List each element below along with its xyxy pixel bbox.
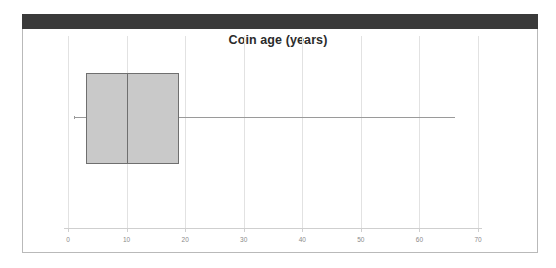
tick-mark-0 — [68, 228, 69, 232]
x-tick-label-20: 20 — [173, 236, 197, 243]
whisker-cap-left — [74, 116, 75, 119]
x-tick-label-50: 50 — [349, 236, 373, 243]
tick-mark-70 — [478, 228, 479, 232]
gridline-0 — [68, 36, 69, 228]
tick-mark-40 — [302, 228, 303, 232]
gridline-60 — [419, 36, 420, 228]
x-tick-label-0: 0 — [56, 236, 80, 243]
tick-mark-20 — [185, 228, 186, 232]
gridline-70 — [478, 36, 479, 228]
median-line — [127, 73, 128, 164]
x-tick-label-30: 30 — [232, 236, 256, 243]
tick-mark-30 — [244, 228, 245, 232]
tick-mark-10 — [127, 228, 128, 232]
tick-mark-50 — [361, 228, 362, 232]
x-tick-label-70: 70 — [466, 236, 490, 243]
boxplot-figure: Coin age (years) 010203040506070 — [0, 0, 556, 268]
gridline-40 — [302, 36, 303, 228]
tick-mark-60 — [419, 228, 420, 232]
x-tick-label-60: 60 — [407, 236, 431, 243]
gridline-50 — [361, 36, 362, 228]
plot-area: Coin age (years) 010203040506070 — [0, 0, 556, 268]
gridline-20 — [185, 36, 186, 228]
box-iqr-rect — [86, 73, 180, 164]
x-tick-label-10: 10 — [115, 236, 139, 243]
chart-title: Coin age (years) — [0, 33, 556, 47]
gridline-30 — [244, 36, 245, 228]
x-tick-label-40: 40 — [290, 236, 314, 243]
